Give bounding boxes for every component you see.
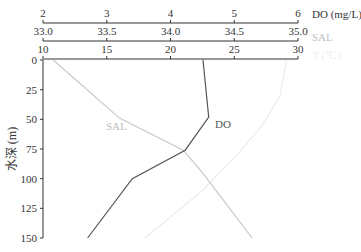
series-label-do: DO bbox=[215, 118, 231, 130]
axis-title-do: DO (mg/L) bbox=[312, 8, 361, 21]
series-sal-line bbox=[53, 60, 252, 238]
tick-label: 75 bbox=[26, 143, 38, 155]
tick-label: 25 bbox=[26, 84, 38, 96]
tick-label: 34.0 bbox=[161, 25, 181, 37]
tick-label: 30 bbox=[293, 43, 305, 55]
x-axis-do: 23456DO (mg/L) bbox=[40, 7, 361, 23]
tick-label: 15 bbox=[101, 43, 113, 55]
series-label-sal: SAL bbox=[106, 120, 127, 132]
series-do-line bbox=[88, 60, 209, 238]
profile-lines: SALDO bbox=[53, 60, 286, 238]
tick-label: 35.0 bbox=[288, 25, 308, 37]
top-x-axes: 23456DO (mg/L)33.033.534.034.535.0SAL101… bbox=[33, 7, 361, 62]
axis-title-t: T (℃) bbox=[312, 49, 341, 62]
tick-label: 125 bbox=[21, 202, 38, 214]
tick-label: 34.5 bbox=[225, 25, 245, 37]
tick-label: 20 bbox=[165, 43, 177, 55]
tick-label: 2 bbox=[40, 7, 46, 19]
tick-label: 33.0 bbox=[33, 25, 53, 37]
tick-label: 10 bbox=[38, 43, 50, 55]
tick-label: 25 bbox=[229, 43, 241, 55]
tick-label: 50 bbox=[26, 113, 38, 125]
depth-y-axis: 0255075100125150 bbox=[21, 54, 44, 244]
tick-label: 3 bbox=[104, 7, 110, 19]
tick-label: 150 bbox=[21, 232, 38, 244]
depth-profile-chart: 23456DO (mg/L)33.033.534.034.535.0SAL101… bbox=[0, 0, 361, 252]
tick-label: 33.5 bbox=[97, 25, 117, 37]
tick-label: 0 bbox=[32, 54, 38, 66]
axis-title-sal: SAL bbox=[312, 31, 333, 43]
x-axis-t: 1015202530T (℃) bbox=[38, 43, 342, 62]
tick-label: 5 bbox=[232, 7, 238, 19]
series-t-line bbox=[145, 60, 287, 238]
tick-label: 4 bbox=[168, 7, 174, 19]
x-axis-sal: 33.033.534.034.535.0SAL bbox=[33, 25, 333, 43]
tick-label: 100 bbox=[21, 173, 38, 185]
y-axis-title: 水深 (m) bbox=[5, 127, 19, 171]
tick-label: 6 bbox=[295, 7, 301, 19]
